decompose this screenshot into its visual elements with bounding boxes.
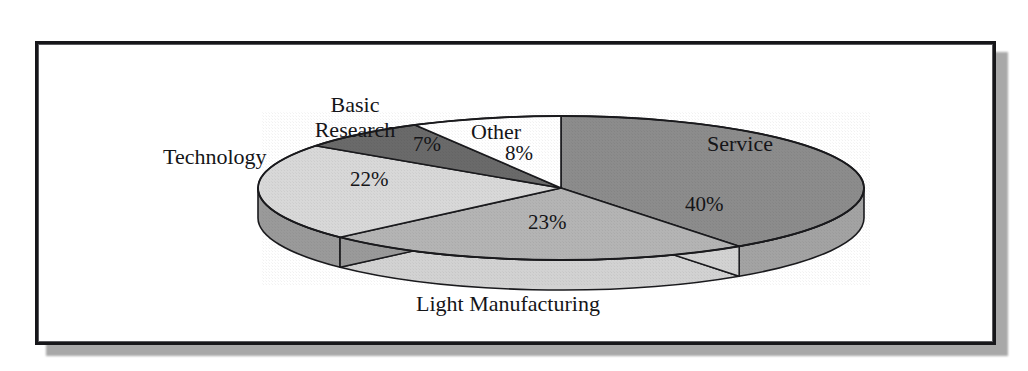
slice-value-light-manufacturing: 23% (528, 211, 567, 234)
figure-scene: Service Other Basic Research Technology … (0, 0, 1028, 371)
slice-label-basic-research: Basic Research (296, 93, 414, 142)
slice-value-other: 8% (505, 142, 533, 165)
slice-label-light-manufacturing: Light Manufacturing (416, 292, 600, 316)
slice-value-service: 40% (685, 193, 724, 216)
slice-label-basic-research-line1: Basic (296, 93, 414, 118)
slice-value-technology: 22% (350, 168, 389, 191)
slice-label-technology: Technology (163, 145, 267, 169)
slice-value-basic-research: 7% (413, 133, 441, 156)
slice-label-service: Service (707, 132, 773, 156)
pie-chart: Service Other Basic Research Technology … (35, 41, 996, 345)
slice-label-basic-research-line2: Research (296, 118, 414, 143)
